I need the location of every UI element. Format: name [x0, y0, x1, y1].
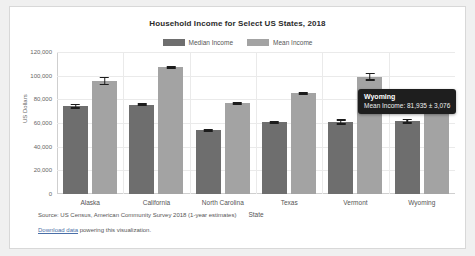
bar-group: Vermont	[322, 52, 388, 194]
bar-mean[interactable]	[92, 81, 117, 194]
y-tick-label: 100,000	[30, 73, 52, 79]
y-tick-label: 120,000	[30, 49, 52, 55]
chart-legend: Median Income Mean Income	[10, 39, 465, 46]
bar-median[interactable]	[63, 106, 88, 194]
x-tick-label: Texas	[256, 199, 322, 206]
bar-group: Wyoming	[389, 52, 455, 194]
error-bar	[75, 104, 77, 109]
bar-groups: AlaskaCaliforniaNorth CarolinaTexasVermo…	[57, 52, 455, 194]
download-row: Download data powering this visualizatio…	[38, 218, 236, 236]
bar-group: North Carolina	[190, 52, 256, 194]
error-bar	[303, 92, 305, 95]
tooltip-title: Wyoming	[364, 93, 450, 100]
bar-median[interactable]	[328, 122, 353, 194]
bar-mean[interactable]	[158, 67, 183, 194]
chart-tooltip: Wyoming Mean Income: 81,935 ± 3,076	[358, 89, 456, 114]
error-bar	[170, 66, 172, 69]
bar-median[interactable]	[395, 121, 420, 194]
bar-median[interactable]	[129, 105, 154, 194]
x-tick-label: California	[123, 199, 189, 206]
legend-item-median[interactable]: Median Income	[163, 39, 233, 46]
legend-label-mean: Mean Income	[273, 39, 312, 46]
bar-median[interactable]	[196, 130, 221, 194]
error-bar	[407, 119, 409, 124]
error-bar	[274, 121, 276, 124]
x-tick-label: Vermont	[322, 199, 388, 206]
error-bar	[208, 129, 210, 132]
legend-label-median: Median Income	[189, 39, 233, 46]
x-tick-label: North Carolina	[190, 199, 256, 206]
y-axis-label: US Dollars	[22, 94, 28, 123]
legend-swatch-median	[163, 39, 185, 46]
x-tick-label: Wyoming	[389, 199, 455, 206]
x-tick-label: Alaska	[57, 199, 123, 206]
error-bar	[340, 119, 342, 124]
error-bar	[237, 102, 239, 105]
y-tick-label: 60,000	[34, 120, 52, 126]
y-tick-label: 0	[49, 191, 52, 197]
bar-mean[interactable]	[291, 93, 316, 194]
visualization-card: Household Income for Select US States, 2…	[9, 6, 466, 249]
download-data-link[interactable]: Download data	[38, 227, 78, 233]
legend-swatch-mean	[247, 39, 269, 46]
y-tick-label: 80,000	[34, 96, 52, 102]
y-tick-label: 20,000	[34, 167, 52, 173]
download-suffix-text: powering this visualization.	[78, 227, 151, 233]
chart-title: Household Income for Select US States, 2…	[10, 19, 465, 28]
chart-footer: Source: US Census, American Community Su…	[38, 212, 236, 236]
plot-area: 020,00040,00060,00080,000100,000120,000 …	[57, 52, 455, 194]
error-bar	[369, 73, 371, 81]
error-bar	[104, 77, 106, 85]
bar-median[interactable]	[262, 122, 287, 194]
tooltip-value: Mean Income: 81,935 ± 3,076	[364, 102, 450, 109]
bar-group: California	[123, 52, 189, 194]
legend-item-mean[interactable]: Mean Income	[247, 39, 312, 46]
bar-mean[interactable]	[225, 103, 250, 194]
bar-group: Alaska	[57, 52, 123, 194]
y-tick-label: 40,000	[34, 144, 52, 150]
error-bar	[141, 103, 143, 106]
bar-group: Texas	[256, 52, 322, 194]
